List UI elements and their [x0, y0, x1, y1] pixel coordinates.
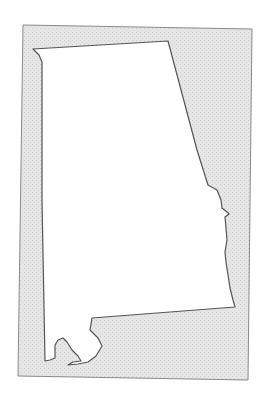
- map-canvas: [0, 0, 267, 411]
